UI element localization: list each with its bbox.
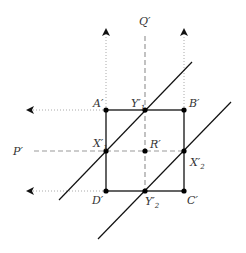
label-c: C′ [187,194,198,207]
label-q: Q′ [139,15,151,28]
label-d: D′ [91,194,104,207]
label-p: P′ [12,145,23,158]
point-a [103,107,108,112]
point-b [181,107,186,112]
point-r [142,148,147,153]
label-a: A′ [92,97,104,110]
label-x2: X′2 [189,156,205,171]
diagonal-line-1 [59,62,192,200]
point-d [103,188,108,193]
label-y1: Y′1 [131,97,145,112]
point-x2 [181,148,186,153]
label-y2: Y′2 [145,195,160,210]
geometry-diagram: Q′ P′ A′ B′ C′ D′ R′ Y′1 Y′2 X′1 X′2 [0,0,246,253]
label-r: R′ [149,138,161,151]
point-y2 [142,188,147,193]
point-c [181,188,186,193]
diagonal-line-2 [98,102,231,239]
label-b: B′ [188,97,200,110]
